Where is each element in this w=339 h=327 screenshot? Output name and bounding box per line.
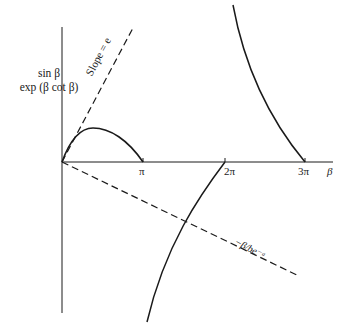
curve-third-branch xyxy=(233,5,305,162)
tick-label-3pi: 3π xyxy=(298,165,309,177)
y-axis-label-line2: exp (β cot β) xyxy=(6,80,92,94)
tick-label-pi: π xyxy=(139,165,145,177)
x-axis-label: β xyxy=(327,165,332,177)
tick-label-2pi: 2π xyxy=(224,165,235,177)
y-axis-label-line1: sin β xyxy=(6,66,92,80)
curve-second-branch xyxy=(147,162,225,322)
diagram-canvas xyxy=(0,0,339,327)
curve-first-branch xyxy=(62,128,143,162)
y-axis-label: sin β exp (β cot β) xyxy=(6,66,92,94)
